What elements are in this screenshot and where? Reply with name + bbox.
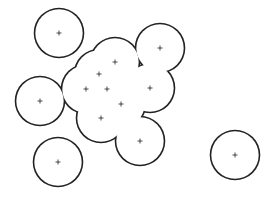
diagram-canvas (0, 0, 273, 197)
buffer-outlines-inner (16, 9, 258, 185)
